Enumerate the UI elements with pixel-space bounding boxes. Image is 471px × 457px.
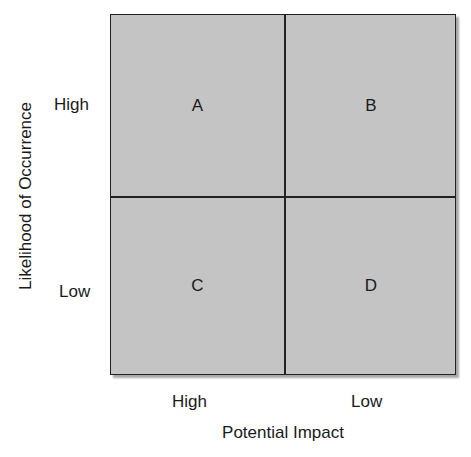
vertical-divider (284, 15, 286, 374)
x-tick-high: High (172, 392, 207, 412)
x-tick-low: Low (351, 392, 382, 412)
horizontal-divider (111, 196, 455, 198)
quadrant-b: B (286, 15, 456, 196)
quadrant-a: A (111, 15, 284, 196)
x-axis-title: Potential Impact (110, 423, 456, 443)
risk-matrix-grid: A B C D (110, 14, 456, 375)
quadrant-c: C (111, 198, 284, 374)
quadrant-d: D (286, 198, 456, 374)
y-tick-high: High (54, 95, 89, 115)
y-tick-low: Low (59, 282, 90, 302)
y-axis-title: Likelihood of Occurrence (16, 46, 36, 346)
